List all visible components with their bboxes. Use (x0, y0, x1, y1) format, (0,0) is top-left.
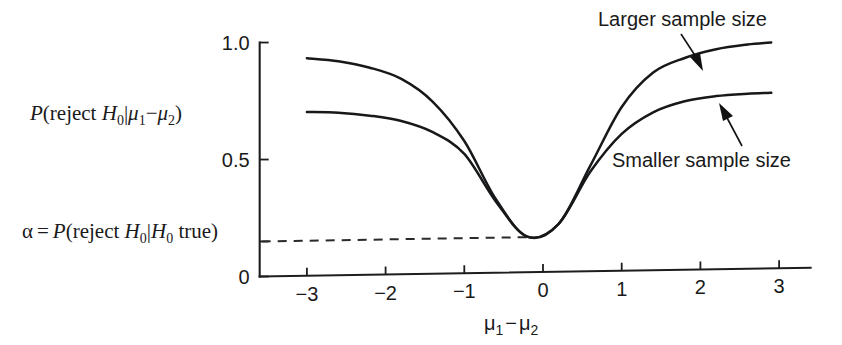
x-tick-label-−3: −3 (295, 283, 318, 305)
y-axis-label-p: P (29, 101, 43, 125)
alpha-level-dashed-line (262, 237, 529, 241)
y-tick-label-0: 0 (239, 266, 250, 288)
alpha-true: true) (173, 219, 218, 243)
y-axis-label-mu2-sub: 2 (168, 113, 175, 128)
x-tick-label-0: 0 (537, 279, 548, 301)
y-axis-label-close: ) (175, 101, 182, 125)
x-axis-title-minus: − (505, 312, 517, 334)
x-axis-title-mu2: μ (519, 312, 531, 334)
alpha-h1-sub: 0 (140, 231, 147, 246)
y-axis-label-minus: − (146, 101, 158, 125)
annotation-larger-sample-size-text: Larger sample size (598, 8, 767, 30)
y-tick-label-1.0: 1.0 (222, 32, 250, 54)
x-tick-label-−1: −1 (453, 280, 476, 302)
annotation-smaller-sample-size: Smaller sample size (612, 103, 791, 171)
y-axis-label: P(reject H0|μ1−μ2) (29, 101, 182, 128)
y-axis-label-mu1-sub: 1 (139, 113, 146, 128)
x-tick-label-3: 3 (774, 275, 785, 297)
x-tick-label-1: 1 (616, 278, 627, 300)
x-axis-title-mu2-sub: 2 (531, 322, 539, 338)
alpha-open: (reject (66, 219, 125, 243)
annotation-larger-sample-size: Larger sample size (598, 8, 767, 71)
curve-layer (262, 43, 772, 242)
power-curve-larger-sample (307, 43, 771, 239)
alpha-definition-label: α=P(reject H0|H0 true) (22, 219, 218, 246)
alpha-symbol: α (22, 219, 33, 243)
annotation-smaller-arrow-head (719, 103, 733, 121)
y-axis-label-open: (reject (43, 101, 102, 125)
y-axis-label-mu1: μ (127, 101, 139, 125)
x-tick-label-2: 2 (695, 276, 706, 298)
power-curve-figure: P(reject H0|μ1−μ2) α=P(reject H0|H0 true… (0, 0, 842, 345)
alpha-p: P (52, 219, 66, 243)
y-tick-label-0.5: 0.5 (222, 149, 250, 171)
alpha-h2-sub: 0 (166, 231, 173, 246)
x-axis-line (260, 268, 811, 277)
y-axis-label-mu2: μ (156, 101, 168, 125)
power-curve-plot: P(reject H0|μ1−μ2) α=P(reject H0|H0 true… (0, 0, 842, 345)
x-axis-title-mu1-sub: 1 (496, 322, 504, 338)
y-axis-label-h-sub: 0 (117, 113, 124, 128)
x-tick-label-−2: −2 (374, 282, 397, 304)
x-axis-title-mu1: μ (484, 312, 496, 334)
annotation-smaller-sample-size-text: Smaller sample size (612, 149, 791, 171)
x-axis-title: μ1−μ2 (484, 312, 539, 338)
alpha-equals: = (37, 219, 49, 243)
annotation-smaller-arrow-line (725, 114, 742, 146)
